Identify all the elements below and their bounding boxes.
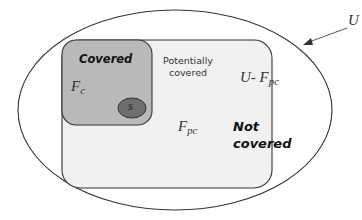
potentially-covered-line2: covered: [158, 67, 218, 79]
universe-label: U: [348, 12, 359, 29]
not-covered-line1: Not: [233, 118, 291, 135]
potentially-covered-set-main: F: [178, 118, 187, 134]
not-covered-set-label: U- Fpc: [240, 69, 279, 87]
potentially-covered-line1: Potentially: [158, 55, 218, 67]
potentially-covered-set-sub: pc: [187, 124, 197, 136]
not-covered-set-prefix: U-: [240, 69, 260, 85]
not-covered-set-sub: pc: [269, 75, 279, 87]
not-covered-title: Not covered: [233, 118, 291, 152]
potentially-covered-title: Potentially covered: [158, 55, 218, 79]
covered-set-label: Fc: [71, 78, 85, 96]
covered-set-main: F: [71, 78, 80, 94]
not-covered-set-main: F: [260, 69, 269, 85]
covered-set-sub: c: [80, 84, 85, 96]
s-label: s: [128, 99, 133, 114]
diagram-canvas: [0, 0, 362, 220]
universe-arrow-icon: [303, 28, 347, 45]
potentially-covered-set-label: Fpc: [178, 118, 197, 136]
covered-title: Covered: [79, 52, 132, 66]
not-covered-line2: covered: [233, 135, 291, 152]
